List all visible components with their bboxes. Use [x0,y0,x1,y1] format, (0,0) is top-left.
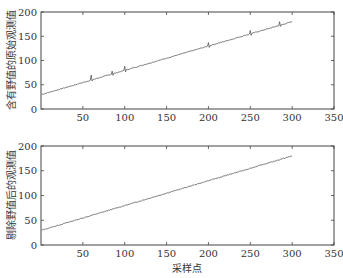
x-tick-label: 100 [115,112,134,123]
x-tick-label: 250 [241,112,260,123]
top-plot: 50100150200250300350 050100150200 含有野值的原… [5,7,343,124]
bottom-plot: 50100150200250300350 050100150200 剔除野值后的… [5,141,343,275]
figure: 50100150200250300350 050100150200 含有野值的原… [0,0,343,278]
y-tick-label: 0 [31,104,37,115]
y-tick-label: 200 [18,7,37,18]
top-y-axis-label: 含有野值的原始观测值 [5,10,17,110]
bottom-x-axis-label: 采样点 [172,262,202,274]
x-tick-label: 300 [283,248,302,259]
x-tick-label: 300 [283,112,302,123]
y-tick-label: 0 [31,240,37,251]
bottom-plot-frame [41,146,334,245]
bottom-y-axis-label: 剔除野值后的观测值 [5,150,17,240]
x-tick-label: 350 [324,112,343,123]
x-tick-label: 100 [115,248,134,259]
x-tick-label: 350 [324,248,343,259]
x-tick-label: 150 [157,112,176,123]
y-tick-label: 100 [18,55,37,66]
y-tick-label: 50 [24,215,37,226]
x-tick-label: 200 [199,112,218,123]
x-tick-label: 250 [241,248,260,259]
y-tick-label: 100 [18,190,37,201]
x-tick-label: 150 [157,248,176,259]
y-tick-label: 150 [18,165,37,176]
x-tick-label: 200 [199,248,218,259]
top-plot-frame [41,12,334,109]
y-tick-label: 150 [18,31,37,42]
x-tick-label: 50 [76,248,89,259]
x-tick-label: 50 [76,112,89,123]
y-tick-label: 50 [24,79,37,90]
y-tick-label: 200 [18,141,37,152]
